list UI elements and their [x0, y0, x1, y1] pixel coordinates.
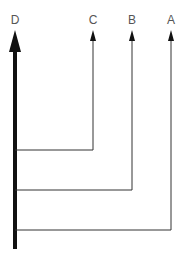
- label-d: D: [11, 13, 20, 27]
- main-trunk-d: [9, 30, 21, 249]
- tree-diagram: [0, 0, 183, 261]
- label-b: B: [128, 13, 136, 27]
- branch-b: [15, 30, 135, 190]
- label-c: C: [89, 13, 98, 27]
- label-a: A: [167, 13, 175, 27]
- arrow-head-d-icon: [9, 30, 21, 52]
- arrow-head-a-icon: [168, 30, 174, 41]
- branch-a: [15, 30, 174, 230]
- diagram: D C B A: [0, 0, 183, 261]
- branch-c: [15, 30, 96, 150]
- arrow-head-b-icon: [129, 30, 135, 41]
- arrow-head-c-icon: [90, 30, 96, 41]
